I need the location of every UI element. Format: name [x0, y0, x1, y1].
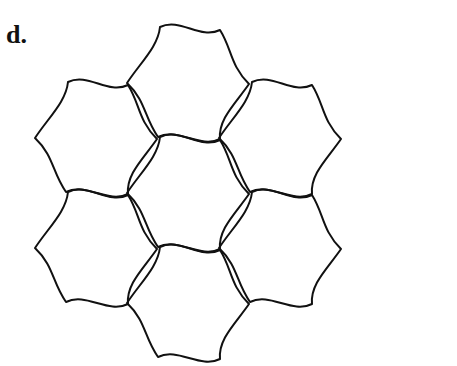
tessellation-diagram: [0, 0, 457, 366]
